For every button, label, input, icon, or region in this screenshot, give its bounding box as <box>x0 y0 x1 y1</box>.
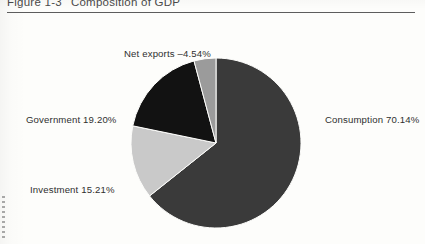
slice-label-government: Government 19.20% <box>26 114 117 125</box>
slice-label-consumption: Consumption 70.14% <box>325 114 419 125</box>
caption-horizontal-rule <box>7 12 415 13</box>
scan-margin-marks <box>2 196 5 240</box>
figure-number: Figure 1-3 <box>7 0 62 8</box>
slice-label-investment: Investment 15.21% <box>30 184 115 195</box>
figure-caption: Figure 1-3Composition of GDP <box>7 0 180 8</box>
figure-title: Composition of GDP <box>71 0 180 8</box>
pie-chart: Net exports –4.54% Consumption 70.14% Go… <box>0 16 425 244</box>
figure-page: Figure 1-3Composition of GDP Net exports… <box>0 0 425 244</box>
slice-label-net-exports: Net exports –4.54% <box>124 48 211 59</box>
pie-chart-svg <box>0 16 425 244</box>
net-exports-leader-line <box>204 60 205 74</box>
pie-slice-group <box>131 58 301 228</box>
